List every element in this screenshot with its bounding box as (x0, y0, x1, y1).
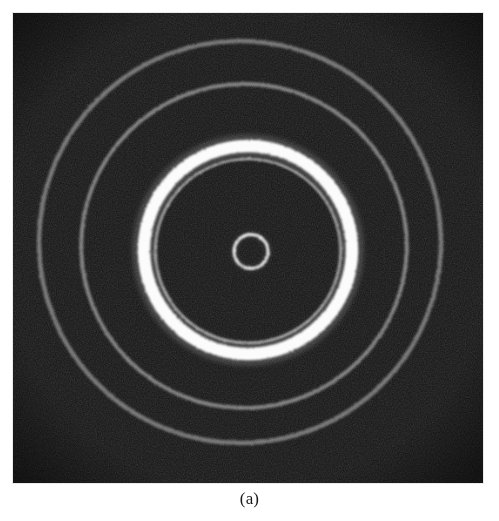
vignette-overlay (13, 13, 483, 483)
figure-root: (a) (0, 0, 499, 521)
diffraction-plate (13, 13, 483, 483)
figure-caption: (a) (0, 489, 499, 509)
diffraction-pattern-canvas (13, 13, 483, 483)
